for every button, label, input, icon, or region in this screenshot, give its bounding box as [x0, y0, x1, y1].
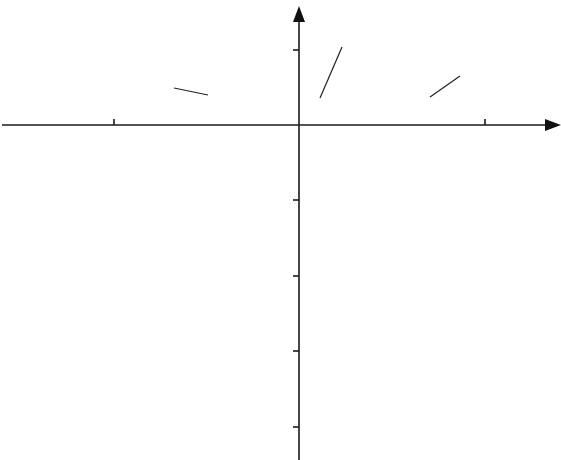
leader-a: [430, 76, 460, 97]
parabola-graph: [0, 0, 561, 460]
leader-b: [174, 88, 208, 95]
x-axis-arrow-icon: [545, 119, 561, 131]
leader-base: [320, 47, 342, 98]
y-axis-arrow-icon: [293, 6, 305, 22]
